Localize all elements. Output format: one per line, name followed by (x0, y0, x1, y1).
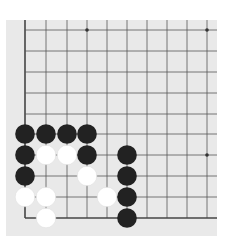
black-stone[interactable] (117, 145, 137, 165)
black-stone[interactable] (15, 145, 35, 165)
grid-lines (25, 20, 217, 218)
white-stone[interactable] (77, 166, 97, 186)
black-stone[interactable] (15, 124, 35, 144)
black-stone[interactable] (117, 187, 137, 207)
black-stone[interactable] (117, 208, 137, 228)
black-stone[interactable] (77, 145, 97, 165)
star-point-icon (205, 28, 209, 32)
black-stone[interactable] (15, 166, 35, 186)
white-stone[interactable] (36, 208, 56, 228)
white-stone[interactable] (36, 145, 56, 165)
star-point-icon (85, 28, 89, 32)
white-stone[interactable] (57, 145, 77, 165)
go-board-grid[interactable] (0, 0, 227, 246)
black-stone[interactable] (117, 166, 137, 186)
black-stone[interactable] (36, 124, 56, 144)
white-stone[interactable] (15, 187, 35, 207)
star-point-icon (205, 153, 209, 157)
white-stone[interactable] (36, 187, 56, 207)
black-stone[interactable] (77, 124, 97, 144)
white-stone[interactable] (97, 187, 117, 207)
black-stone[interactable] (57, 124, 77, 144)
